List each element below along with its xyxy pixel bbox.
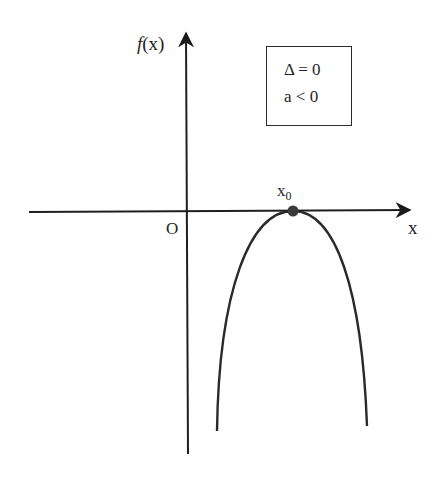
parabola-diagram: f(x) x O x0 [0,0,440,479]
y-axis [186,33,188,454]
origin-label: O [166,219,178,238]
x-axis [29,210,410,212]
parabola-curve [217,211,367,431]
x-axis-label: x [408,217,418,238]
vertex-label: x0 [277,181,292,203]
vertex-point [288,206,299,217]
legend-box: Δ = 0 a < 0 [266,46,352,126]
legend-discriminant: Δ = 0 [284,60,321,80]
legend-coefficient: a < 0 [284,87,318,107]
y-axis-label: f(x) [137,33,164,55]
